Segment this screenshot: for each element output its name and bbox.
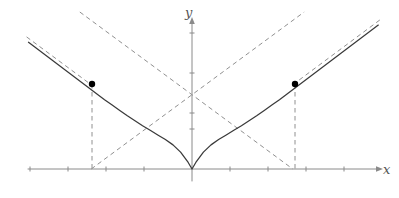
falling-asymptote bbox=[80, 12, 293, 169]
droplines-group bbox=[92, 84, 295, 169]
y-axis-label: y bbox=[185, 6, 192, 19]
math-figure: y x bbox=[0, 0, 399, 198]
left-marked-point bbox=[89, 81, 95, 87]
plot-canvas bbox=[0, 0, 399, 198]
left-asymptote-tangent bbox=[27, 37, 92, 85]
right-asymptote-tangent bbox=[293, 20, 380, 85]
x-axis-label: x bbox=[383, 163, 390, 176]
x-axis-arrowhead bbox=[376, 166, 383, 172]
axis-group bbox=[28, 17, 383, 181]
dashed-lines-group bbox=[27, 12, 381, 169]
marked-points-group bbox=[89, 81, 298, 87]
function-curve bbox=[29, 25, 379, 169]
rising-asymptote bbox=[91, 12, 304, 169]
right-marked-point bbox=[292, 81, 298, 87]
